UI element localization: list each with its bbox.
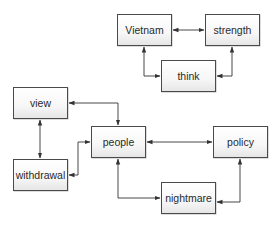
node-policy: policy	[213, 126, 268, 158]
node-view: view	[13, 87, 68, 119]
node-people: people	[91, 126, 146, 158]
node-nightmare: nightmare	[161, 182, 216, 214]
edge-withdrawal-people	[69, 142, 90, 175]
edge-policy-nightmare	[217, 159, 240, 202]
edge-view-people	[69, 103, 118, 125]
edge-strength-think	[217, 47, 232, 76]
concept-diagram: Vietnam strength think view people polic…	[0, 0, 278, 226]
node-think: think	[161, 60, 216, 92]
edge-people-nightmare	[118, 159, 160, 198]
edge-vietnam-think	[144, 47, 160, 76]
node-withdrawal: withdrawal	[13, 159, 68, 191]
node-vietnam: Vietnam	[117, 14, 172, 46]
node-strength: strength	[205, 14, 260, 46]
